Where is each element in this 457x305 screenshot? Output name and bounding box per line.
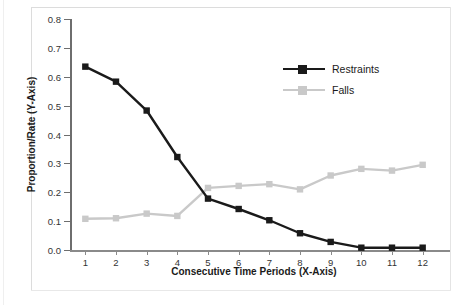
- x-tick-mark: [239, 250, 240, 255]
- legend-swatch-restraints: [283, 63, 325, 75]
- y-tick-label: 0.0: [48, 245, 61, 256]
- x-axis-title-text: Consecutive Time Periods (X-Axis): [171, 266, 336, 277]
- data-point-marker: [266, 181, 272, 187]
- data-point-marker: [205, 195, 211, 201]
- data-point-marker: [82, 216, 88, 222]
- data-point-marker: [205, 185, 211, 191]
- square-marker-icon: [298, 86, 307, 95]
- data-point-marker: [358, 166, 364, 172]
- x-tick-mark: [147, 250, 148, 255]
- data-point-marker: [235, 206, 241, 212]
- x-tick-mark: [300, 250, 301, 255]
- y-tick-label: 0.6: [48, 71, 61, 82]
- legend-label-falls: Falls: [332, 84, 354, 96]
- data-point-marker: [235, 183, 241, 189]
- figure-frame-top: [31, 7, 451, 8]
- legend-item-falls[interactable]: Falls: [283, 79, 433, 100]
- data-point-marker: [82, 63, 88, 69]
- y-tick-label: 0.7: [48, 42, 61, 53]
- data-point-marker: [358, 244, 364, 250]
- legend-label-restraints: Restraints: [332, 63, 379, 75]
- chart-legend: Restraints Falls: [283, 58, 433, 100]
- y-tick-label: 0.4: [48, 129, 61, 140]
- data-point-marker: [389, 167, 395, 173]
- page-left-rule: [3, 0, 4, 305]
- figure-frame-bottom: [31, 290, 451, 291]
- y-axis-title: Proportion/Rate (Y-Axis): [24, 19, 40, 250]
- series-line-falls: [85, 165, 422, 219]
- data-point-marker: [174, 154, 180, 160]
- x-axis-title: Consecutive Time Periods (X-Axis): [70, 266, 438, 277]
- x-tick-mark: [116, 250, 117, 255]
- x-tick-mark: [331, 250, 332, 255]
- data-point-marker: [297, 230, 303, 236]
- data-point-marker: [143, 210, 149, 216]
- data-point-marker: [174, 213, 180, 219]
- y-axis-title-text: Proportion/Rate (Y-Axis): [27, 77, 38, 193]
- data-point-marker: [113, 78, 119, 84]
- y-tick-mark: [64, 250, 70, 251]
- legend-swatch-falls: [283, 84, 325, 96]
- data-point-marker: [327, 172, 333, 178]
- y-tick-label: 0.8: [48, 14, 61, 25]
- x-tick-mark: [269, 250, 270, 255]
- x-tick-mark: [208, 250, 209, 255]
- chart-figure: Proportion/Rate (Y-Axis) 0.00.10.20.30.4…: [0, 0, 457, 305]
- data-point-marker: [113, 215, 119, 221]
- square-marker-icon: [298, 65, 307, 74]
- x-tick-mark: [85, 250, 86, 255]
- x-tick-mark: [177, 250, 178, 255]
- data-point-marker: [297, 186, 303, 192]
- y-tick-label: 0.5: [48, 100, 61, 111]
- figure-frame-right: [450, 7, 451, 291]
- y-tick-label: 0.1: [48, 216, 61, 227]
- data-point-marker: [327, 239, 333, 245]
- data-point-marker: [389, 244, 395, 250]
- data-point-marker: [266, 217, 272, 223]
- series-lines: [70, 19, 438, 250]
- data-point-marker: [419, 162, 425, 168]
- y-tick-label: 0.2: [48, 187, 61, 198]
- legend-item-restraints[interactable]: Restraints: [283, 58, 433, 79]
- data-point-marker: [419, 244, 425, 250]
- y-tick-label: 0.3: [48, 158, 61, 169]
- data-point-marker: [143, 107, 149, 113]
- plot-area: 0.00.10.20.30.40.50.60.70.8 123456789101…: [70, 19, 438, 250]
